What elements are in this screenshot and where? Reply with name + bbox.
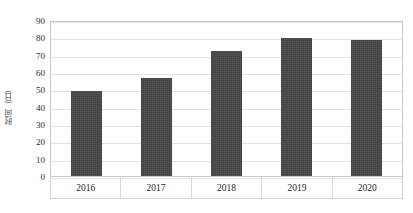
bar-series [51,22,402,176]
bar-slot [262,22,332,176]
bar[interactable] [211,51,242,176]
bar-slot [332,22,402,176]
bar-slot [191,22,261,176]
bar-chart: 时间（日） 0102030405060708090 20162017201820… [0,0,413,213]
y-axis-tick-label: 90 [36,16,45,26]
y-axis-tick-label: 50 [36,85,45,95]
y-axis-tick-label: 20 [36,137,45,147]
bar-slot [51,22,121,176]
x-axis-category-label: 2018 [192,177,262,198]
y-axis-tick-label: 80 [36,33,45,43]
plot-area [50,21,403,177]
x-axis-category-label: 2019 [262,177,332,198]
y-axis-tick-label: 60 [36,68,45,78]
y-axis-tick-label: 0 [41,172,46,182]
y-axis-tick-label: 70 [36,51,45,61]
bar[interactable] [351,40,382,176]
x-axis-category-label: 2017 [121,177,191,198]
y-axis-tick-label: 40 [36,103,45,113]
y-axis-title: 时间（日） [2,50,16,160]
bar[interactable] [281,38,312,176]
x-axis-category-label: 2016 [51,177,121,198]
y-axis-tick-labels: 0102030405060708090 [18,21,48,177]
y-axis-tick-label: 30 [36,120,45,130]
bar-slot [121,22,191,176]
x-axis-category-label: 2020 [333,177,402,198]
bar[interactable] [141,78,172,176]
y-axis-tick-label: 10 [36,155,45,165]
x-axis-category-labels: 20162017201820192020 [50,177,403,199]
bar[interactable] [71,91,102,176]
